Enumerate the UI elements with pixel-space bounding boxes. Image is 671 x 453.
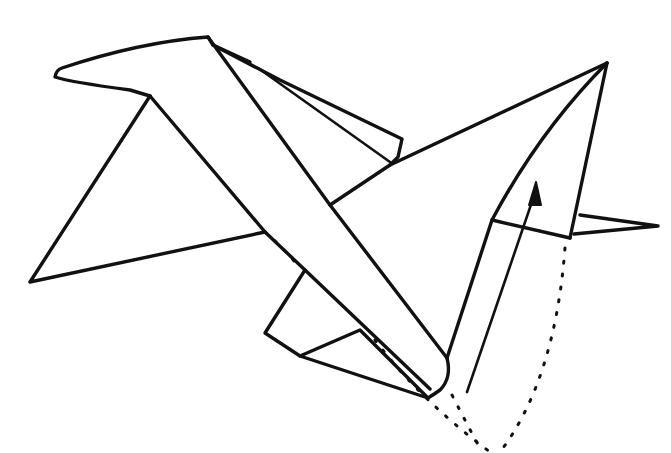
back-flap-inner <box>258 68 390 162</box>
right-body-top-edge <box>330 63 607 205</box>
right-body-outer-edge <box>570 63 607 238</box>
fold-guide-right <box>500 248 565 452</box>
upper-left-wing-flap <box>55 37 250 96</box>
push-up-arrow-head <box>529 182 541 205</box>
origami-diagram <box>0 0 671 453</box>
tail-point <box>574 215 658 234</box>
push-up-arrow-shaft <box>467 190 536 392</box>
diagonal-band-top-edge <box>208 37 447 358</box>
right-body-inner-edge <box>447 63 607 358</box>
diagonal-band-end <box>428 358 448 398</box>
back-flap <box>213 45 402 165</box>
right-body-bottom-edge <box>492 220 570 238</box>
diagonal-band-bottom-edge <box>150 96 430 389</box>
